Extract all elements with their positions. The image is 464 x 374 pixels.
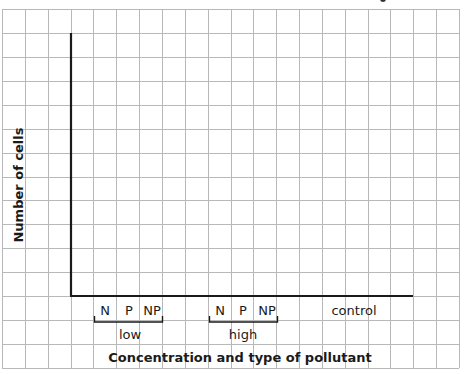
low-np-label: NP <box>143 304 161 317</box>
high-p-label: P <box>239 304 247 317</box>
low-p-label: P <box>125 304 133 317</box>
high-group-label: high <box>229 328 257 341</box>
low-group-label: low <box>119 328 141 341</box>
control-label: control <box>331 304 376 317</box>
x-axis-title: Concentration and type of pollutant <box>108 351 371 364</box>
graph-paper-chart <box>0 0 464 374</box>
low-n-label: N <box>100 304 110 317</box>
high-np-label: NP <box>258 304 276 317</box>
high-n-label: N <box>215 304 225 317</box>
y-axis-title: Number of cells <box>11 127 26 242</box>
